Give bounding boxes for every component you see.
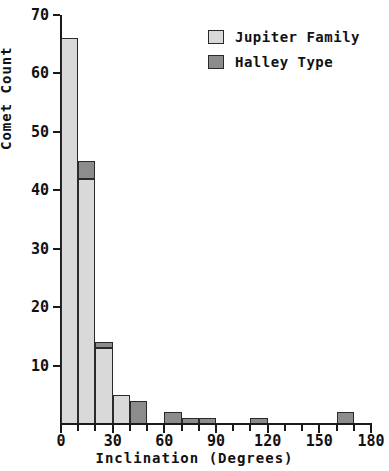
x-minor-tick-mark: [94, 425, 96, 431]
x-minor-tick-mark: [232, 425, 234, 431]
bar-segment-halley-type: [95, 342, 112, 348]
bar-segment-halley-type: [78, 161, 95, 179]
y-tick-mark: [53, 306, 60, 308]
y-tick-mark: [53, 14, 60, 16]
y-tick-label: 40: [31, 181, 49, 199]
bar-segment-jupiter-family: [78, 179, 95, 424]
x-minor-tick-mark: [181, 425, 183, 431]
y-axis-ticks: 10203040506070: [0, 0, 60, 471]
legend: Jupiter Family Halley Type: [208, 26, 360, 76]
x-minor-tick-mark: [129, 425, 131, 431]
x-minor-tick-mark: [284, 425, 286, 431]
y-tick-mark: [53, 72, 60, 74]
plot-area: [61, 15, 371, 424]
x-tick-label: 150: [306, 432, 333, 450]
y-tick-label: 10: [31, 357, 49, 375]
legend-swatch-icon: [208, 55, 224, 69]
x-minor-tick-mark: [301, 425, 303, 431]
x-axis-label: Inclination (Degrees): [0, 450, 389, 466]
y-tick-label: 20: [31, 298, 49, 316]
bar-segment-jupiter-family: [95, 348, 112, 424]
x-minor-tick-mark: [336, 425, 338, 431]
x-minor-tick-mark: [249, 425, 251, 431]
x-minor-tick-mark: [146, 425, 148, 431]
x-tick-label: 180: [357, 432, 384, 450]
y-tick-label: 70: [31, 6, 49, 24]
y-tick-mark: [53, 189, 60, 191]
x-tick-label: 30: [104, 432, 122, 450]
bar-segment-jupiter-family: [61, 38, 78, 424]
x-minor-tick-mark: [198, 425, 200, 431]
y-tick-label: 30: [31, 240, 49, 258]
x-tick-label: 60: [155, 432, 173, 450]
x-tick-label: 120: [254, 432, 281, 450]
y-tick-mark: [53, 248, 60, 250]
legend-label: Jupiter Family: [235, 29, 360, 45]
y-tick-label: 50: [31, 123, 49, 141]
bar-segment-jupiter-family: [113, 395, 130, 424]
y-tick-mark: [53, 131, 60, 133]
bar-segment-halley-type: [130, 401, 147, 424]
legend-item-halley-type: Halley Type: [208, 51, 360, 73]
x-minor-tick-mark: [77, 425, 79, 431]
legend-item-jupiter-family: Jupiter Family: [208, 26, 360, 48]
x-tick-label: 90: [207, 432, 225, 450]
legend-label: Halley Type: [235, 54, 333, 70]
comet-inclination-histogram: Comet Count 10203040506070 0306090120150…: [0, 0, 389, 471]
y-tick-label: 60: [31, 64, 49, 82]
y-tick-mark: [53, 365, 60, 367]
legend-swatch-icon: [208, 30, 224, 44]
x-minor-tick-mark: [353, 425, 355, 431]
x-tick-label: 0: [56, 432, 65, 450]
